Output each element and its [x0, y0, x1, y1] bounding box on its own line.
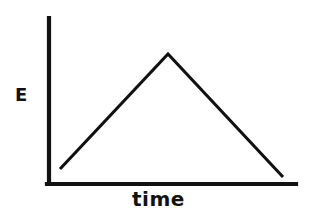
- figure-root: E time: [0, 0, 317, 215]
- line-chart-canvas: [0, 0, 317, 215]
- y-axis-label: E: [15, 86, 27, 104]
- energy-curve: [60, 54, 283, 177]
- x-axis-label: time: [132, 189, 185, 209]
